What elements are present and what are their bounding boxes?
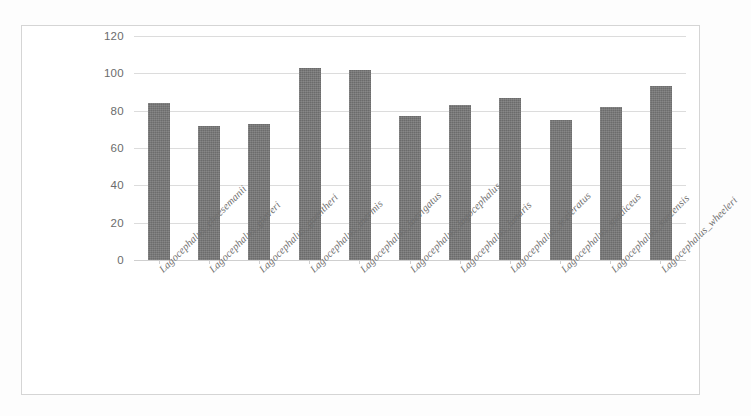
- bar[interactable]: [148, 103, 170, 260]
- x-label-slot: Lagocephalus_suezensis: [586, 265, 636, 393]
- x-label-slot: Lagocephalus_laevigatus: [335, 265, 385, 393]
- x-label-slot: Lagocephalus_cheesemanii: [134, 265, 184, 393]
- y-axis: 020406080100120: [82, 36, 124, 260]
- bar[interactable]: [198, 126, 220, 260]
- x-label-slot: Lagocephalus_sceleratus: [485, 265, 535, 393]
- y-axis-tick-label: 0: [82, 254, 124, 266]
- x-label-slot: Lagocephalus_lunaris: [435, 265, 485, 393]
- y-axis-tick-label: 80: [82, 105, 124, 117]
- x-label-slot: Lagocephalus_guentheri: [234, 265, 284, 393]
- y-axis-tick-label: 20: [82, 217, 124, 229]
- x-axis-labels: Lagocephalus_cheesemaniiLagocephalus_glo…: [134, 265, 686, 393]
- y-axis-tick-label: 100: [82, 67, 124, 79]
- chart-container: 020406080100120 Lagocephalus_cheesemanii…: [21, 25, 700, 395]
- chart-screenshot: 020406080100120 Lagocephalus_cheesemanii…: [0, 0, 751, 416]
- bar[interactable]: [550, 120, 572, 260]
- x-label-slot: Lagocephalus_lagocephalus: [385, 265, 435, 393]
- y-axis-tick-label: 40: [82, 179, 124, 191]
- bar-slot: [134, 36, 184, 260]
- bar[interactable]: [248, 124, 270, 260]
- x-label-slot: Lagocephalus_spadiceus: [536, 265, 586, 393]
- bar[interactable]: [399, 116, 421, 260]
- x-label-slot: Lagocephalus_inermis: [285, 265, 335, 393]
- y-axis-tick-label: 60: [82, 142, 124, 154]
- chart-plot-wrapper: 020406080100120 Lagocephalus_cheesemanii…: [22, 26, 701, 396]
- x-label-slot: Lagocephalus_wheeleri: [636, 265, 686, 393]
- y-axis-tick-label: 120: [82, 30, 124, 42]
- x-label-slot: Lagocephalus_gloveri: [184, 265, 234, 393]
